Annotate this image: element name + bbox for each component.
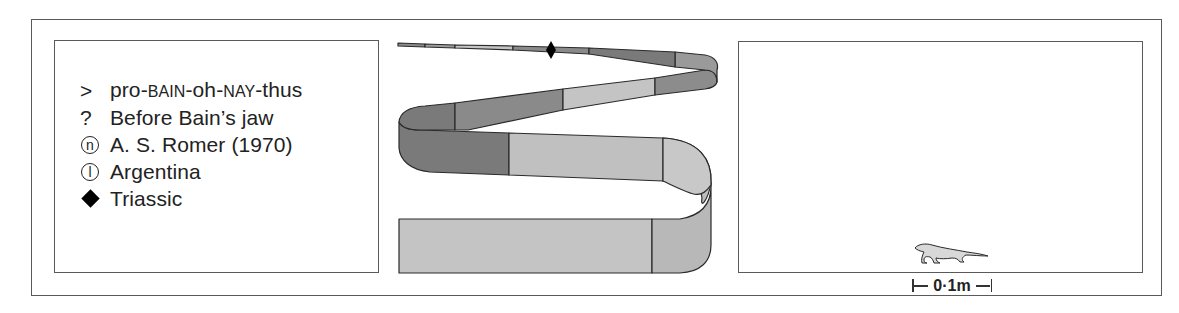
named-by-text: A. S. Romer (1970)	[110, 131, 293, 158]
legend-item-period: Triassic	[80, 185, 302, 212]
scale-panel	[738, 41, 1143, 273]
legend-list: > pro-BAIN-oh-NAY-thus ? Before Bain’s j…	[80, 77, 302, 212]
ribbon-top-strip-1	[398, 43, 425, 47]
scale-label: 0·1m	[933, 277, 970, 295]
ribbon-band-middle-light	[509, 133, 663, 181]
diamond-icon	[81, 189, 99, 207]
circled-n-icon: n	[81, 136, 99, 154]
location-text: Argentina	[110, 158, 201, 185]
ribbon-band-upper-right	[655, 70, 717, 95]
probainognathus-silhouette-icon	[912, 240, 992, 266]
ribbon-band-upper-light	[563, 78, 655, 110]
greater-than-icon: >	[80, 77, 110, 104]
legend-item-meaning: ? Before Bain’s jaw	[80, 104, 302, 131]
ribbon-top-strip-3	[455, 45, 513, 50]
triassic-diamond-marker	[546, 41, 556, 59]
legend-item-location: l Argentina	[80, 158, 302, 185]
timeline-ribbon	[390, 30, 735, 280]
ribbon-band-upper-mid	[455, 89, 563, 130]
circled-l-icon: l	[81, 163, 99, 181]
legend-item-pronunciation: > pro-BAIN-oh-NAY-thus	[80, 77, 302, 104]
ribbon-band-bottom-light	[399, 219, 652, 273]
scale-arrow-left-icon	[914, 285, 928, 287]
ribbon-top-strip-5	[589, 48, 675, 67]
ribbon-band-middle-right	[663, 138, 711, 194]
scale-bar: 0·1m	[912, 276, 992, 296]
scale-arrow-right-icon	[976, 285, 990, 287]
pronunciation-text: pro-BAIN-oh-NAY-thus	[110, 76, 302, 105]
legend-item-named-by: n A. S. Romer (1970)	[80, 131, 302, 158]
period-text: Triassic	[110, 185, 182, 212]
ribbon-band-upper-left	[399, 103, 455, 130]
meaning-text: Before Bain’s jaw	[110, 104, 274, 131]
ribbon-top-strip-2	[425, 44, 455, 48]
question-mark-icon: ?	[80, 104, 110, 131]
scale-tick-right	[991, 279, 993, 292]
